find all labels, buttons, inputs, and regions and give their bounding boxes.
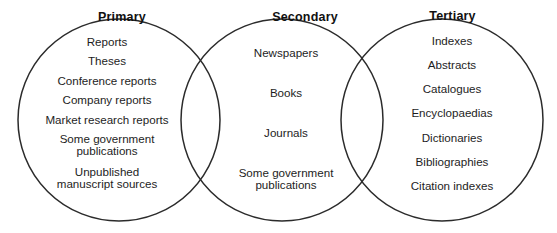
list-item: Reports [16, 36, 198, 48]
list-item: Abstracts [362, 59, 542, 71]
list-item: Company reports [16, 94, 198, 106]
list-item: Books [196, 87, 376, 99]
list-item: Some government publications [196, 167, 376, 191]
list-item: Journals [196, 127, 376, 139]
list-item: Some government publications [16, 133, 198, 157]
list-item: Market research reports [16, 114, 198, 126]
list-item: Dictionaries [362, 132, 542, 144]
list-item: Newspapers [196, 47, 376, 59]
list-item: Citation indexes [362, 180, 542, 192]
set-header-secondary: Secondary [240, 10, 370, 24]
list-item: Catalogues [362, 83, 542, 95]
set-items-secondary: Newspapers Books Journals Some governmen… [196, 47, 376, 191]
list-item: Conference reports [16, 75, 198, 87]
set-header-tertiary: Tertiary [390, 9, 515, 23]
list-item: Indexes [362, 35, 542, 47]
set-items-tertiary: Indexes Abstracts Catalogues Encyclopaed… [362, 35, 542, 204]
list-item: Theses [16, 55, 198, 67]
list-item: Unpublished manuscript sources [16, 166, 198, 190]
venn-diagram: Primary Reports Theses Conference report… [0, 0, 557, 233]
set-header-primary: Primary [62, 10, 182, 24]
list-item: Encyclopaedias [362, 107, 542, 119]
list-item: Bibliographies [362, 156, 542, 168]
set-items-primary: Reports Theses Conference reports Compan… [16, 36, 198, 197]
